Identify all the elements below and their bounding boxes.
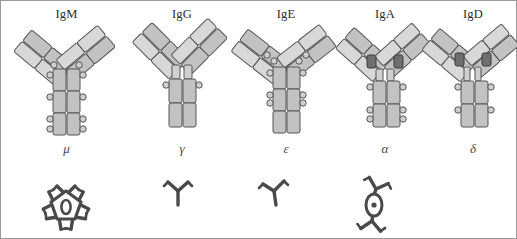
- isotype-column-igm: IgM: [1, 1, 132, 239]
- isotype-column-iga: IgA: [340, 1, 430, 239]
- isotype-label-iga: IgA: [340, 7, 430, 22]
- j-chain-iga: [366, 194, 382, 216]
- monomer-diagram-ige: [232, 27, 340, 139]
- isotype-label-igg: IgG: [132, 7, 232, 22]
- isotype-column-igd: IgD: [430, 1, 516, 239]
- heavy-chain-symbol-igm: μ: [1, 141, 132, 157]
- monomer-diagram-igd: [430, 27, 516, 139]
- monomer-diagram-igg: [132, 27, 232, 139]
- polymer-diagram-igm-pentamer: [1, 171, 132, 237]
- heavy-chain-symbol-igd: δ: [430, 141, 516, 157]
- j-chain-igm: [51, 191, 81, 219]
- isotype-column-ige: IgE: [232, 1, 340, 239]
- polymer-diagram-ige-monomer: [232, 171, 340, 237]
- isotype-column-igg: IgG: [132, 1, 232, 239]
- polymer-diagram-iga-dimer: [340, 171, 430, 237]
- heavy-chain-symbol-iga: α: [340, 141, 430, 157]
- isotype-label-ige: IgE: [232, 7, 340, 22]
- isotype-label-igd: IgD: [430, 7, 516, 22]
- polymer-diagram-igd-none: [430, 171, 516, 237]
- monomer-diagram-iga: [340, 27, 430, 139]
- monomer-diagram-igm: [1, 27, 132, 139]
- immunoglobulin-figure: IgM: [0, 0, 517, 239]
- polymer-diagram-igg-monomer: [132, 171, 232, 237]
- heavy-chain-symbol-igg: γ: [132, 141, 232, 157]
- isotype-label-igm: IgM: [1, 7, 132, 22]
- heavy-chain-symbol-ige: ε: [232, 141, 340, 157]
